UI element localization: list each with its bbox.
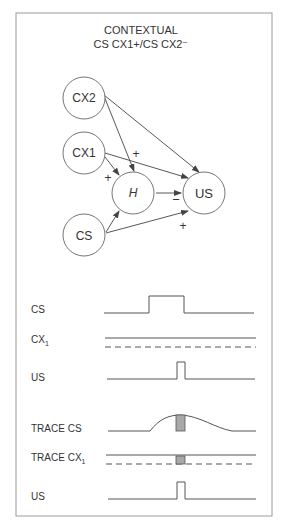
edge-cx2-us [104, 95, 199, 172]
edge-cs-h [106, 211, 119, 232]
trace-cx1-shaded-block [176, 456, 185, 464]
figure: CONTEXTUAL CS CX1+/CS CX2⁻ + + − + CX2 C… [0, 0, 282, 526]
row-label-cs: CS [31, 304, 45, 315]
node-h-label: H [129, 186, 138, 200]
us-pulse-wave [107, 362, 255, 379]
node-cx2-label: CX2 [72, 91, 96, 105]
network-edges [104, 95, 199, 233]
title-line-1: CONTEXTUAL [104, 24, 178, 36]
sign-cx1-h: + [104, 171, 111, 185]
node-us-label: US [195, 186, 213, 201]
trace-cs-shaded-block [176, 415, 185, 431]
figure-frame [16, 13, 272, 516]
row-label-trace-cx1: TRACE CX1 [31, 452, 86, 465]
row-label-us-2: US [31, 491, 45, 502]
node-cs-label: CS [76, 229, 93, 243]
node-cx1-label: CX1 [72, 146, 96, 160]
edge-cs-us [106, 211, 188, 233]
cs-pulse-wave [104, 296, 254, 313]
edge-cx1-us [105, 153, 188, 178]
row-label-trace-cs: TRACE CS [31, 423, 82, 434]
row-label-us: US [31, 372, 45, 383]
row-label-cx1: CX1 [31, 334, 49, 347]
sign-cx1-us: + [132, 147, 139, 161]
sign-h-us: − [172, 192, 180, 207]
title-line-2: CS CX1+/CS CX2⁻ [94, 38, 189, 50]
sign-cs-us: + [179, 219, 186, 233]
us-pulse-wave-2 [108, 482, 256, 499]
